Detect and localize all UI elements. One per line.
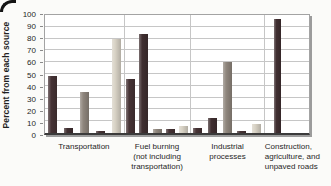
bar-slot [190, 15, 205, 133]
y-axis-tick-labels: 1009080706050403020100 [0, 14, 44, 135]
category-label-2: Fuel burning(not includingtransportation… [124, 142, 191, 171]
bar-slot [61, 15, 77, 133]
plot-area [44, 14, 310, 135]
y-tick-mark [40, 135, 43, 136]
y-tick-label: 90 [27, 22, 36, 31]
y-tick-label: 30 [27, 94, 36, 103]
bar-series-3-warm-gray [80, 92, 89, 133]
bar-chart-figure: Percent from each source 100908070605040… [0, 0, 331, 186]
bar-slot [93, 15, 109, 133]
bar-series-1-dark-maroon [48, 76, 57, 133]
bar-series-2-dark-maroon [274, 19, 282, 133]
bar-group-2 [124, 15, 190, 133]
bar-slot [164, 15, 177, 133]
y-tick-mark [40, 38, 43, 39]
bar-series-2-dark-maroon [208, 118, 217, 133]
bar-series-3-warm-gray [153, 129, 162, 133]
bar-slot [249, 15, 264, 133]
y-tick-mark [40, 14, 43, 15]
y-tick-mark [40, 99, 43, 100]
figure-corner-decoration [0, 0, 16, 12]
y-tick-label: 20 [27, 106, 36, 115]
bar-slot [137, 15, 150, 133]
y-tick-label: 0 [32, 131, 36, 140]
y-tick-label: 60 [27, 58, 36, 67]
y-tick-label: 100 [23, 10, 36, 19]
bar-series-5-light-tan [179, 126, 188, 133]
bar-series-4-dark-maroon [166, 129, 175, 133]
bar-slot [291, 15, 300, 133]
bar-series-4-dark-maroon [96, 131, 105, 133]
y-tick-mark [40, 50, 43, 51]
category-label-1: Transportation [44, 142, 124, 171]
category-label-4: Construction,agriculture, andunpaved roa… [265, 142, 310, 171]
bar-slot [273, 15, 282, 133]
bar-slot [77, 15, 93, 133]
y-tick-mark [40, 123, 43, 124]
bar-group-4 [264, 15, 309, 133]
bar-slot [151, 15, 164, 133]
bar-slot [264, 15, 273, 133]
bar-slot [108, 15, 124, 133]
bar-slot [235, 15, 250, 133]
bar-slot [300, 15, 309, 133]
y-tick-label: 50 [27, 70, 36, 79]
bar-slot [220, 15, 235, 133]
bar-series-5-light-tan [252, 124, 261, 133]
y-tick-mark [40, 62, 43, 63]
bar-group-3 [190, 15, 264, 133]
y-tick-label: 10 [27, 118, 36, 127]
bar-series-3-warm-gray [223, 62, 232, 133]
bar-series-2-dark-maroon [139, 34, 148, 133]
x-axis-labels: TransportationFuel burning(not including… [44, 142, 310, 171]
category-label-3: Industrialprocesses [190, 142, 264, 171]
y-tick-mark [40, 26, 43, 27]
bar-slot [124, 15, 137, 133]
bar-series-1-dark-maroon [193, 128, 202, 133]
bar-groups [45, 15, 309, 133]
bar-slot [45, 15, 61, 133]
bar-series-4-dark-maroon [237, 131, 246, 133]
y-tick-label: 80 [27, 34, 36, 43]
bar-group-1 [45, 15, 124, 133]
bar-slot [205, 15, 220, 133]
y-tick-mark [40, 111, 43, 112]
y-tick-mark [40, 75, 43, 76]
y-tick-label: 70 [27, 46, 36, 55]
bar-slot [282, 15, 291, 133]
bar-series-2-dark-maroon [64, 128, 73, 133]
bar-series-1-dark-maroon [126, 79, 135, 133]
bar-slot [177, 15, 190, 133]
y-tick-mark [40, 87, 43, 88]
bar-series-5-light-tan [112, 39, 121, 133]
y-tick-label: 40 [27, 82, 36, 91]
